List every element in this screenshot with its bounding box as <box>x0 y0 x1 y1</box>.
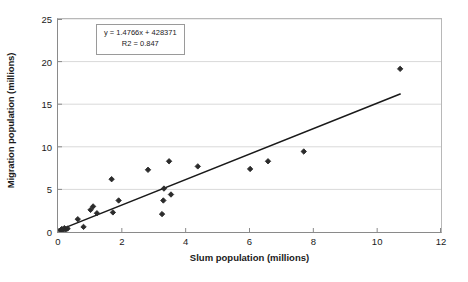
data-point <box>109 176 114 181</box>
x-tick-label: 8 <box>298 236 328 247</box>
data-point <box>166 159 171 164</box>
data-point <box>161 198 166 203</box>
data-point <box>145 167 150 172</box>
data-point <box>116 198 121 203</box>
data-point <box>247 166 252 171</box>
data-point <box>265 159 270 164</box>
trendline-equation-box: y = 1.4766x + 428371 R2 = 0.847 <box>96 24 185 55</box>
x-tick-label: 6 <box>235 236 265 247</box>
y-axis-tick-marks <box>58 20 62 232</box>
x-axis-title: Slum population (millions) <box>57 252 442 263</box>
x-tick-label: 10 <box>362 236 392 247</box>
trendline <box>60 94 401 230</box>
y-tick-label: 15 <box>24 99 52 110</box>
y-axis-title-text: Migration population (millions) <box>6 52 17 188</box>
data-point <box>301 149 306 154</box>
trendline-path <box>60 94 401 230</box>
x-tick-label: 12 <box>426 236 456 247</box>
x-axis-tick-marks <box>59 228 441 232</box>
data-point-markers <box>58 66 403 232</box>
x-tick-label: 4 <box>171 236 201 247</box>
data-point <box>397 66 402 71</box>
x-axis-title-text: Slum population (millions) <box>190 252 309 263</box>
x-tick-label: 0 <box>43 236 73 247</box>
y-tick-label: 5 <box>24 184 52 195</box>
y-tick-label: 25 <box>24 14 52 25</box>
data-point <box>159 211 164 216</box>
data-point <box>81 224 86 229</box>
data-point <box>168 192 173 197</box>
data-point <box>195 164 200 169</box>
y-tick-label: 10 <box>24 141 52 152</box>
r-squared-text: R2 = 0.847 <box>104 39 177 50</box>
y-tick-label: 20 <box>24 56 52 67</box>
x-tick-label: 2 <box>107 236 137 247</box>
data-point <box>110 210 115 215</box>
y-axis-title: Migration population (millions) <box>0 0 22 240</box>
scatter-chart-figure: Migration population (millions) 05101520… <box>0 0 468 282</box>
trendline-equation-text: y = 1.4766x + 428371 <box>104 28 177 39</box>
